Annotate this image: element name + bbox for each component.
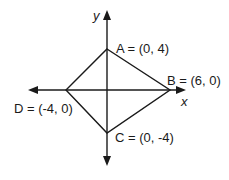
x-axis-label: x (180, 94, 188, 109)
vertex-c-label: C = (0, -4) (115, 130, 174, 145)
x-axis-left-arrow-icon (28, 86, 38, 94)
y-axis-down-arrow-icon (103, 156, 111, 166)
y-axis-up-arrow-icon (103, 10, 111, 20)
quadrilateral-abcd (66, 49, 170, 133)
vertex-b-label: B = (6, 0) (167, 73, 221, 88)
vertex-a-label: A = (0, 4) (116, 41, 169, 56)
coordinate-diagram: y x A = (0, 4) B = (6, 0) C = (0, -4) D … (0, 0, 229, 180)
y-axis (103, 10, 111, 166)
vertex-d-label: D = (-4, 0) (14, 101, 73, 116)
y-axis-label: y (92, 8, 101, 23)
